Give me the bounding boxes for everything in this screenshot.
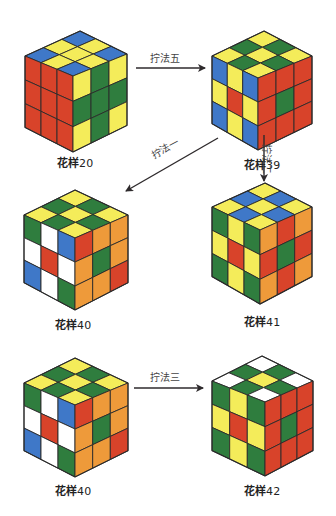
cubes-layer: [24, 31, 313, 477]
caption-label: 花样: [55, 485, 77, 498]
caption-label: 花样: [55, 319, 77, 332]
move-label-move-5: 拧法五: [150, 50, 180, 65]
caption-label: 花样: [57, 157, 79, 170]
move-label-move-2: 拧法二: [260, 144, 275, 174]
cube-pattern-42: [212, 356, 313, 476]
cube-pattern-39: [212, 31, 312, 150]
rubiks-cube-pattern-diagram: 花样20花样39花样40花样41花样40花样42拧法五拧法一拧法二拧法三: [0, 0, 336, 516]
cube-pattern-40-a: [24, 190, 128, 310]
caption-label: 花样: [244, 316, 266, 329]
pattern-caption: 花样41: [244, 313, 281, 329]
caption-number: 20: [79, 157, 93, 170]
caption-number: 41: [266, 316, 280, 329]
caption-number: 40: [77, 485, 91, 498]
caption-number: 42: [266, 485, 280, 498]
caption-label: 花样: [244, 485, 266, 498]
move-label-move-3: 拧法三: [150, 369, 180, 384]
pattern-caption: 花样40: [55, 316, 92, 332]
pattern-caption: 花样42: [244, 482, 281, 498]
caption-number: 40: [77, 319, 91, 332]
diagram-canvas: [0, 0, 336, 516]
cube-pattern-40-b: [24, 358, 128, 477]
cube-pattern-20: [25, 31, 127, 152]
pattern-caption: 花样20: [57, 154, 94, 170]
cube-pattern-41: [212, 183, 312, 304]
pattern-caption: 花样40: [55, 482, 92, 498]
